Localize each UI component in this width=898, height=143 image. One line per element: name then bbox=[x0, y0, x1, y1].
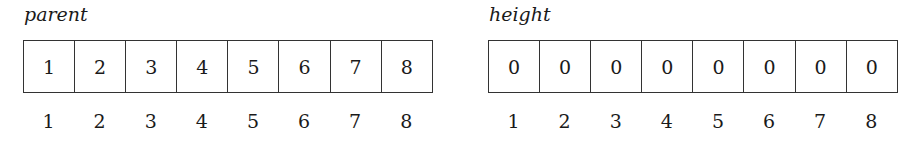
parent-index: 7 bbox=[330, 108, 381, 134]
height-cell: 0 bbox=[642, 41, 693, 92]
parent-index: 3 bbox=[125, 108, 176, 134]
parent-label: parent bbox=[24, 3, 88, 25]
parent-cell: 5 bbox=[228, 41, 279, 92]
height-cell: 0 bbox=[796, 41, 847, 92]
height-index: 3 bbox=[590, 108, 641, 134]
height-index: 2 bbox=[539, 108, 590, 134]
height-index: 5 bbox=[692, 108, 743, 134]
height-cells: 0 0 0 0 0 0 0 0 bbox=[488, 40, 898, 93]
parent-index: 4 bbox=[176, 108, 227, 134]
parent-cell: 7 bbox=[331, 41, 382, 92]
height-index: 4 bbox=[641, 108, 692, 134]
parent-index: 8 bbox=[381, 108, 432, 134]
parent-cell: 4 bbox=[177, 41, 228, 92]
parent-index: 6 bbox=[278, 108, 329, 134]
height-indices: 1 2 3 4 5 6 7 8 bbox=[488, 108, 897, 134]
height-cell: 0 bbox=[540, 41, 591, 92]
height-cell: 0 bbox=[744, 41, 795, 92]
height-index: 6 bbox=[743, 108, 794, 134]
height-index: 1 bbox=[488, 108, 539, 134]
height-index: 7 bbox=[795, 108, 846, 134]
height-label: height bbox=[489, 3, 551, 25]
height-cell: 0 bbox=[591, 41, 642, 92]
parent-indices: 1 2 3 4 5 6 7 8 bbox=[23, 108, 432, 134]
height-cell: 0 bbox=[847, 41, 898, 92]
parent-index: 1 bbox=[23, 108, 74, 134]
parent-cell: 3 bbox=[126, 41, 177, 92]
parent-index: 2 bbox=[74, 108, 125, 134]
parent-index: 5 bbox=[227, 108, 278, 134]
parent-cell: 8 bbox=[382, 41, 433, 92]
height-cell: 0 bbox=[693, 41, 744, 92]
height-index: 8 bbox=[846, 108, 897, 134]
height-cell: 0 bbox=[489, 41, 540, 92]
parent-cells: 1 2 3 4 5 6 7 8 bbox=[23, 40, 433, 93]
parent-cell: 2 bbox=[75, 41, 126, 92]
parent-cell: 6 bbox=[279, 41, 330, 92]
parent-cell: 1 bbox=[24, 41, 75, 92]
